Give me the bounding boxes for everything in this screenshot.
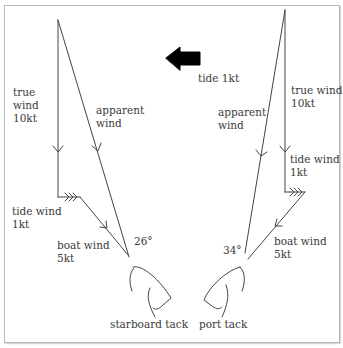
true-wind-label-left: true wind 10kt (13, 86, 39, 125)
angle-label-right: 34° (223, 244, 242, 257)
apparent-wind-label-right: apparent wind (218, 106, 266, 132)
starboard-tack-vectors (53, 20, 129, 257)
tack-label-port: port tack (199, 318, 247, 331)
tack-label-starboard: starboard tack (110, 318, 188, 331)
tide-label: tide 1kt (198, 72, 239, 85)
port-tack-vectors (245, 10, 305, 259)
tide-wind-label-right: tide wind 1kt (290, 153, 340, 179)
boat-wind-label-left: boat wind 5kt (57, 239, 110, 265)
angle-label-left: 26° (134, 235, 153, 248)
apparent-wind-label-left: apparent wind (96, 104, 144, 130)
apparent-wind-vector-left (58, 20, 129, 257)
starboard-boat-icon (130, 267, 171, 317)
tide-wind-label-left: tide wind 1kt (12, 205, 62, 231)
tide-direction-arrow-icon (166, 47, 200, 70)
port-boat-icon (204, 267, 244, 317)
boat-wind-label-right: boat wind 5kt (274, 235, 327, 261)
true-wind-label-right: true wind 10kt (291, 84, 342, 110)
